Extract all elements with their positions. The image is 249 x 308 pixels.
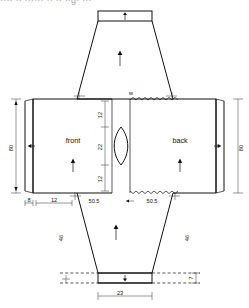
dim-front-bottom-b: 12 [36,197,72,206]
back-grain-arrow-up [178,159,182,172]
dim-bottom-band-width-label: 23 [117,290,123,296]
dim-bottom-band-height: 7 [188,273,200,283]
dim-bottom-band-width: 23 [98,290,152,300]
dim-bottom-left-datum [62,275,70,283]
dim-right-side-height-label: 80 [238,145,244,151]
dim-bottom-band-height-label: 7 [188,276,194,279]
dim-bottom-flap-right: 46 [184,235,190,241]
neck-seam-bottom-zigzag [130,191,178,194]
dim-left-side-height-label: 80 [8,145,14,151]
dim-front-bottom-c-label: 50.5 [89,198,100,204]
dim-left-side-height: 80 [8,99,21,193]
pattern-diagram-stage: ···· ·· ······ ·· ·· ··g· ··· [0,0,249,308]
bottom-trapezoid-shape [77,193,173,273]
back-panel-label: back [172,136,188,145]
dim-bottom-flap-left-label: 46 [58,235,64,241]
back-panel-shape [130,99,224,193]
dim-neck-middle-label: 22 [97,144,103,150]
dim-right-side-height: 80 [233,99,244,193]
front-grain-arrow-up [71,159,75,172]
dim-bottom-flap-left: 46 [58,235,64,241]
bottom-band-extension-lines [60,273,200,283]
bottom-trapezoid-arrow-up [114,225,119,241]
top-trapezoid-shape [77,21,173,99]
pattern-drawing: front back w [0,0,249,308]
front-panel-label: front [66,136,80,145]
dim-front-bottom-b-label: 12 [51,197,57,203]
bottom-band-arrow-down [123,275,127,282]
neck-marker-label: w [128,90,134,96]
neck-opening-shape [114,127,128,165]
top-trapezoid-arrow-up [118,51,123,67]
dim-neck-column: 12 22 12 [97,101,109,191]
dim-neck-upper-label: 12 [97,112,103,118]
back-side-width-arrow-right [214,144,221,148]
dim-front-bottom-c: 50.5 [89,198,100,204]
dim-front-bottom-a-label: 8 [27,197,30,203]
top-band-arrow-up [123,12,127,20]
front-side-width-arrow-left [28,144,35,148]
dim-front-bottom-a: 8 [25,197,33,206]
dim-bottom-flap-right-label: 46 [184,235,190,241]
dim-neck-lower-label: 12 [97,176,103,182]
dim-back-bottom-c: 50.5 [126,198,157,204]
dim-back-bottom-c-label: 50.5 [147,198,158,204]
